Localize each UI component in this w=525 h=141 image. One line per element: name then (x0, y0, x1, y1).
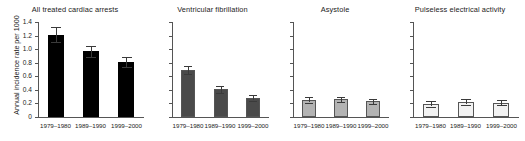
x-axis-tick-label: 1989–1990 (204, 122, 236, 129)
y-axis-tick (35, 49, 38, 50)
error-bar-cap-lower (497, 105, 507, 106)
y-axis-tick-label: 0.4 (4, 86, 32, 93)
error-bar-cap-upper (249, 95, 257, 96)
error-bar-cap-upper (122, 57, 132, 58)
error-bar-cap-upper (369, 99, 377, 100)
error-bar-cap-lower (337, 102, 345, 103)
error-bar-cap-upper (51, 27, 61, 28)
y-axis-tick (290, 103, 293, 104)
y-axis-tick (35, 90, 38, 91)
bar (118, 62, 134, 117)
y-axis-tick-label: 0 (4, 113, 32, 120)
y-axis-tick (169, 103, 172, 104)
x-axis-tick-label: 1989–1990 (73, 122, 108, 129)
chart-panel: Asystole1979–19801989–19901999–2000 (275, 0, 395, 141)
y-axis-tick (169, 63, 172, 64)
y-axis-tick-label: 1.0 (4, 45, 32, 52)
y-axis-tick (410, 22, 413, 23)
error-bar-cap-lower (51, 42, 61, 43)
chart-panel: Pulseless electrical activity1979–198019… (395, 0, 525, 141)
x-axis-tick-label: 1999–2000 (109, 122, 144, 129)
error-bar-cap-lower (122, 67, 132, 68)
x-axis-tick-label: 1999–2000 (237, 122, 269, 129)
error-bar-cap-upper (461, 99, 471, 100)
y-axis-tick (410, 36, 413, 37)
x-axis (413, 117, 519, 118)
error-bar-cap-upper (426, 101, 436, 102)
y-axis-tick (35, 22, 38, 23)
error-bar-line (221, 86, 222, 93)
y-axis (413, 22, 414, 118)
y-axis-tick (169, 36, 172, 37)
y-axis-tick (410, 76, 413, 77)
error-bar-cap-upper (86, 46, 96, 47)
y-axis (293, 22, 294, 118)
y-axis-tick (410, 90, 413, 91)
y-axis-tick (290, 49, 293, 50)
error-bar-cap-upper (337, 97, 345, 98)
y-axis-tick-label: 0.2 (4, 99, 32, 106)
x-axis (172, 117, 269, 118)
error-bar-cap-lower (426, 107, 436, 108)
y-axis-tick (410, 63, 413, 64)
bar (48, 35, 64, 117)
bar (181, 70, 195, 117)
y-axis-tick-label: 0.8 (4, 59, 32, 66)
y-axis-tick (35, 103, 38, 104)
error-bar-cap-lower (216, 93, 224, 94)
error-bar-cap-lower (249, 101, 257, 102)
y-axis-tick (410, 49, 413, 50)
y-axis-tick-label: 0.6 (4, 72, 32, 79)
error-bar-cap-lower (369, 104, 377, 105)
error-bar-line (91, 46, 92, 57)
error-bar-cap-lower (461, 105, 471, 106)
error-bar-cap-lower (184, 74, 192, 75)
y-axis-tick (290, 36, 293, 37)
y-axis-tick (35, 36, 38, 37)
x-axis (293, 117, 389, 118)
y-axis-tick (169, 49, 172, 50)
chart-panel: Ventricular fibrillation1979–19801989–19… (150, 0, 275, 141)
panel-title: Asystole (275, 5, 395, 14)
y-axis-tick (169, 22, 172, 23)
panel-title: Pulseless electrical activity (395, 5, 525, 14)
panel-title: Ventricular fibrillation (150, 5, 275, 14)
x-axis-tick-label: 1999–2000 (357, 122, 389, 129)
y-axis-tick (169, 76, 172, 77)
error-bar-cap-upper (305, 97, 313, 98)
x-axis-tick-label: 1989–1990 (325, 122, 357, 129)
y-axis-tick (290, 63, 293, 64)
y-axis-tick (35, 76, 38, 77)
x-axis-tick-label: 1999–2000 (484, 122, 519, 129)
x-axis (38, 117, 144, 118)
y-axis-tick-label: 1.4 (4, 18, 32, 25)
x-axis-tick-label: 1989–1990 (448, 122, 483, 129)
y-axis-tick (169, 90, 172, 91)
panel-title: All treated cardiac arrests (0, 5, 150, 14)
y-axis-tick (410, 103, 413, 104)
error-bar-cap-lower (305, 103, 313, 104)
error-bar-line (56, 27, 57, 42)
x-axis-tick-label: 1979–1980 (38, 122, 73, 129)
error-bar-cap-upper (216, 86, 224, 87)
y-axis-tick (290, 22, 293, 23)
x-axis-tick-label: 1979–1980 (413, 122, 448, 129)
y-axis-tick (290, 90, 293, 91)
y-axis (38, 22, 39, 118)
y-axis-tick-label: 1.2 (4, 32, 32, 39)
error-bar-cap-upper (497, 100, 507, 101)
y-axis (172, 22, 173, 118)
error-bar-cap-lower (86, 57, 96, 58)
error-bar-cap-upper (184, 66, 192, 67)
x-axis-tick-label: 1979–1980 (172, 122, 204, 129)
bar (83, 51, 99, 117)
figure-panel-group: Annual incidence rate per 1000All treate… (0, 0, 525, 141)
y-axis-tick (35, 63, 38, 64)
y-axis-tick (290, 76, 293, 77)
x-axis-tick-label: 1979–1980 (293, 122, 325, 129)
error-bar-line (188, 66, 189, 74)
chart-panel: All treated cardiac arrests00.20.40.60.8… (0, 0, 150, 141)
